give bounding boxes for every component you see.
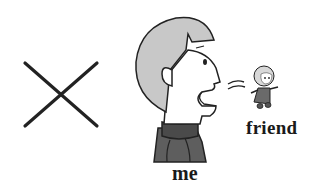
illustration-canvas: me friend bbox=[0, 0, 317, 191]
label-me: me bbox=[172, 163, 198, 183]
sound-waves-icon bbox=[226, 78, 248, 96]
small-friend-figure-icon bbox=[248, 62, 282, 112]
label-friend: friend bbox=[246, 118, 297, 137]
x-mark-icon bbox=[20, 58, 104, 132]
shouting-person-icon bbox=[130, 12, 230, 164]
